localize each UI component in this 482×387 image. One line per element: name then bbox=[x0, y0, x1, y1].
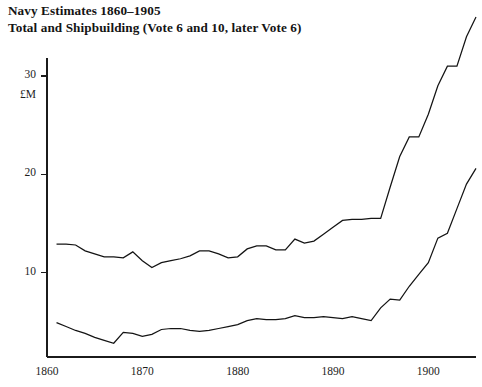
x-tick-label: 1870 bbox=[112, 365, 172, 377]
y-axis-unit-label: £M bbox=[6, 88, 36, 100]
series-line-shipbuilding bbox=[57, 168, 476, 343]
series-line-total bbox=[57, 17, 476, 268]
chart-plot-area bbox=[0, 0, 482, 387]
x-tick-label: 1900 bbox=[398, 365, 458, 377]
x-tick-label: 1860 bbox=[17, 365, 77, 377]
chart-figure: Navy Estimates 1860–1905 Total and Shipb… bbox=[0, 0, 482, 387]
x-tick-label: 1880 bbox=[208, 365, 268, 377]
y-tick-label: 30 bbox=[6, 68, 36, 80]
x-tick-label: 1890 bbox=[303, 365, 363, 377]
y-tick-label: 10 bbox=[6, 265, 36, 277]
y-tick-marks bbox=[41, 76, 47, 273]
y-tick-label: 20 bbox=[6, 166, 36, 178]
